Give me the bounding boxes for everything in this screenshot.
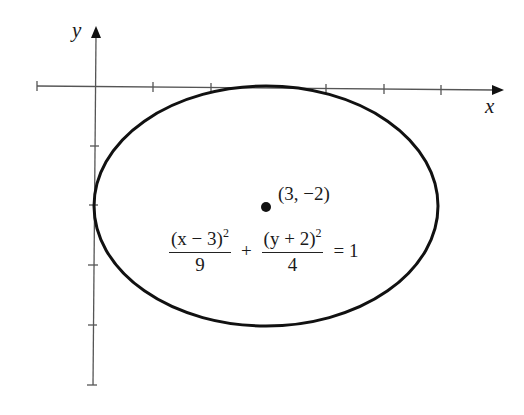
term-y-denominator: 4 — [288, 253, 298, 276]
term-y-numerator: (y + 2) — [264, 228, 316, 249]
ellipse-equation: (x − 3)2 9 + (y + 2)2 4 = 1 — [165, 226, 364, 276]
equals-one: = 1 — [333, 240, 358, 262]
y-axis-label: y — [72, 18, 81, 43]
center-point-label: (3, −2) — [278, 183, 330, 205]
plus-sign: + — [241, 240, 252, 262]
equation-term-x: (x − 3)2 9 — [169, 226, 231, 276]
ellipse-diagram: y x (3, −2) (x − 3)2 9 + (y + 2)2 4 = 1 — [0, 0, 524, 415]
equation-term-y: (y + 2)2 4 — [262, 226, 324, 276]
graph-canvas — [0, 0, 524, 415]
term-x-numerator: (x − 3) — [171, 228, 223, 249]
x-axis-label: x — [485, 94, 494, 119]
term-x-exponent: 2 — [223, 226, 229, 240]
term-y-exponent: 2 — [315, 226, 321, 240]
term-x-denominator: 9 — [195, 253, 205, 276]
center-point-icon — [261, 202, 271, 212]
x-axis — [37, 81, 494, 95]
y-axis-arrow-icon — [91, 26, 101, 38]
